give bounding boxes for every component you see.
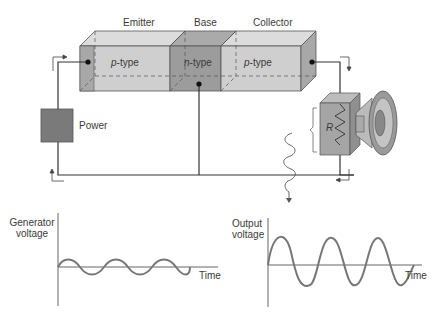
base-label: Base: [194, 17, 217, 28]
output-voltage-chart: [268, 218, 422, 307]
power-source: [41, 109, 73, 142]
generator-voltage-chart: [58, 213, 218, 306]
resistor-box-front: [320, 103, 350, 155]
collector-label: Collector: [253, 17, 292, 28]
emitter-type-label: p-type: [111, 57, 139, 68]
emitter-top-face: [80, 31, 185, 46]
collector-type-label: p-type: [244, 57, 272, 68]
heat-wave-icon: [284, 133, 296, 198]
transistor-amplifier-diagram: [0, 0, 448, 321]
base-front-face: [170, 46, 221, 91]
generator-voltage-ylabel: Generator voltage: [7, 217, 57, 239]
output-time-xlabel: Time: [405, 270, 427, 281]
speaker-icon: [356, 91, 397, 155]
base-type-label: n-type: [184, 57, 212, 68]
resistor-bracket: [310, 108, 317, 152]
output-voltage-ylabel: Output voltage: [232, 218, 268, 240]
collector-front-face: [221, 46, 301, 91]
power-label: Power: [79, 120, 107, 131]
generator-time-xlabel: Time: [199, 270, 221, 281]
resistor-label: R: [326, 122, 333, 133]
heat-arrow-head: [286, 198, 292, 203]
emitter-label: Emitter: [123, 17, 155, 28]
collector-top-face: [221, 31, 316, 46]
